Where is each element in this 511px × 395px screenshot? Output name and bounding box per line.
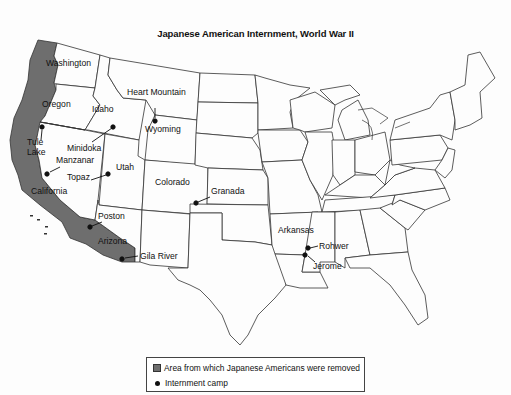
legend-label-camp: Internment camp	[165, 378, 228, 388]
camp-dot-topaz	[106, 172, 110, 176]
channel-islands	[30, 215, 48, 235]
label-wyoming: Wyoming	[145, 125, 181, 134]
label-camp-tule-lake-line2: Lake	[27, 148, 46, 157]
label-camp-rohwer: Rohwer	[319, 242, 349, 251]
camp-dot-icon	[155, 381, 160, 386]
state-florida	[345, 252, 428, 325]
camp-dot-poston	[88, 225, 92, 229]
label-arizona: Arizona	[98, 237, 127, 246]
camp-dot-gila-river	[120, 257, 124, 261]
state-south-dakota	[196, 102, 258, 138]
camp-dot-tule-lake	[40, 125, 44, 129]
label-washington: Washington	[46, 59, 91, 68]
label-camp-granada: Granada	[211, 187, 244, 196]
gray-swatch-icon	[153, 364, 161, 372]
label-california: California	[31, 187, 67, 196]
state-new-york	[390, 92, 455, 140]
state-north-dakota	[198, 73, 258, 103]
camp-dot-granada	[194, 201, 198, 205]
camp-dot-minidoka	[111, 125, 115, 129]
label-colorado: Colorado	[155, 178, 190, 187]
camp-dot-jerome	[303, 253, 307, 257]
legend-item-removed-area: Area from which Japanese Americans were …	[153, 363, 360, 373]
label-utah: Utah	[116, 163, 134, 172]
label-camp-jerome: Jerome	[313, 262, 342, 271]
label-camp-poston: Poston	[98, 212, 125, 221]
label-camp-heart-mountain: Heart Mountain	[127, 88, 186, 97]
label-oregon: Oregon	[42, 100, 71, 109]
label-camp-topaz: Topaz	[67, 173, 90, 182]
camp-dot-manzanar	[45, 172, 49, 176]
state-wyoming	[145, 115, 197, 165]
label-camp-manzanar: Manzanar	[56, 156, 94, 165]
state-new-england	[450, 52, 495, 130]
label-camp-gila-river: Gila River	[140, 252, 178, 261]
map-legend: Area from which Japanese Americans were …	[146, 357, 365, 392]
label-arkansas: Arkansas	[278, 226, 314, 235]
camp-dot-heart-mountain	[153, 119, 157, 123]
camp-dot-rohwer	[306, 246, 310, 250]
state-iowa	[258, 130, 308, 162]
state-utah	[99, 134, 145, 210]
label-idaho: Idaho	[92, 105, 114, 114]
label-camp-minidoka: Minidoka	[67, 144, 101, 153]
label-camp-tule-lake-line1: Tule	[27, 138, 43, 147]
legend-label-removed-area: Area from which Japanese Americans were …	[164, 363, 360, 373]
legend-item-camp: Internment camp	[153, 378, 228, 388]
state-nebraska	[195, 133, 263, 170]
